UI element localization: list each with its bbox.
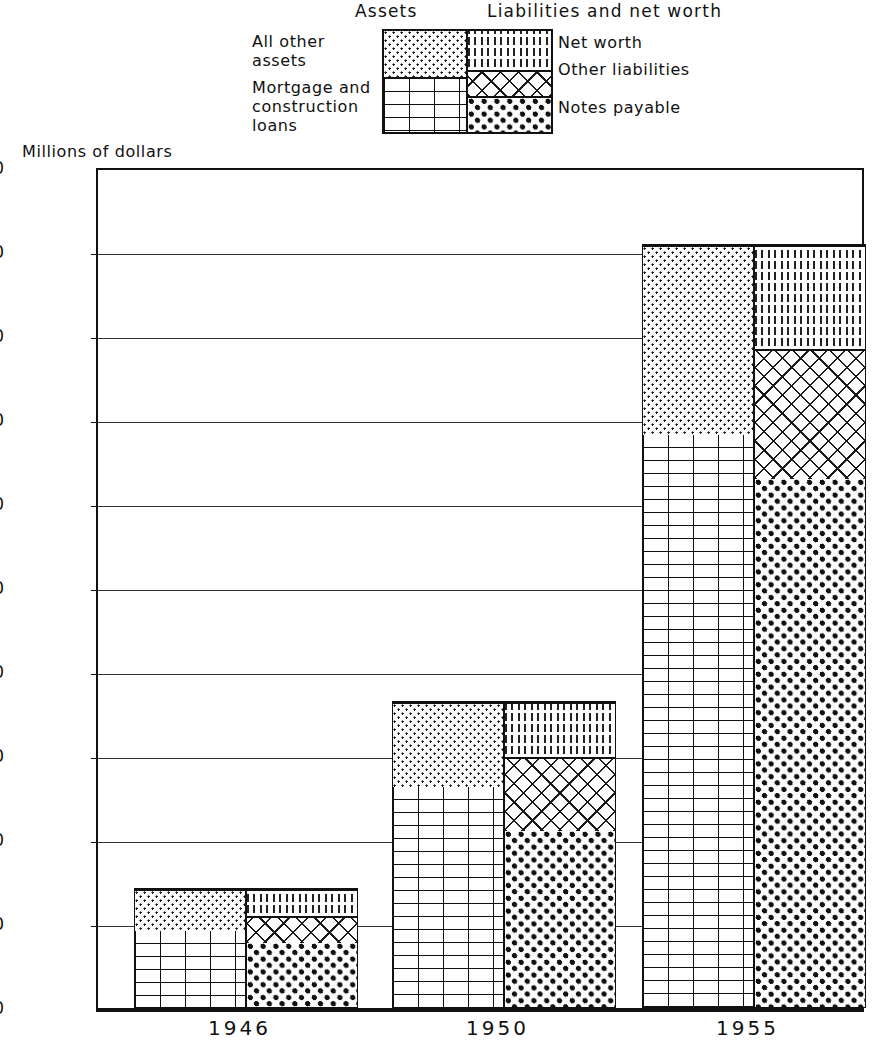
bar-segment-brick <box>643 435 753 1007</box>
y-axis-tick-label: 1,000 <box>0 578 5 598</box>
y-axis-tick-label: 1,800 <box>0 242 5 262</box>
y-axis-tick-mark <box>91 254 98 255</box>
y-axis-tick-label: 400 <box>0 830 5 850</box>
bar-segment-fine-dots <box>135 889 245 930</box>
chart-plot-area <box>96 168 864 1012</box>
y-axis-tick-label: 2,000 <box>0 158 5 178</box>
bar-1946-assets <box>134 888 246 1008</box>
bar-1955-liabilities <box>754 244 866 1008</box>
legend-label-other-liabilities: Other liabilities <box>558 60 690 79</box>
bar-segment-crosshatch <box>247 916 357 943</box>
y-axis-tick-label: 1,400 <box>0 410 5 430</box>
legend-title-liabilities: Liabilities and net worth <box>487 1 722 21</box>
swatch-other-liabilities <box>468 72 552 97</box>
bar-segment-crosshatch <box>505 757 615 831</box>
bar-segment-vertical-dash <box>247 889 357 916</box>
y-axis-tick-label: 200 <box>0 914 5 934</box>
bar-segment-brick <box>393 787 503 1007</box>
swatch-notes-payable <box>468 98 552 132</box>
y-axis-tick-label: 600 <box>0 746 5 766</box>
y-axis-tick-mark <box>91 506 98 507</box>
y-axis-tick-mark <box>91 674 98 675</box>
bar-1946-liabilities <box>246 888 358 1008</box>
bar-segment-bold-dots <box>755 479 865 1007</box>
legend-label-all-other-assets: All other assets <box>252 32 325 70</box>
bar-1950-liabilities <box>504 701 616 1008</box>
bar-segment-crosshatch <box>755 349 865 479</box>
bar-segment-bold-dots <box>505 831 615 1007</box>
legend-title-assets: Assets <box>355 1 418 21</box>
legend-label-net-worth: Net worth <box>558 33 642 52</box>
y-axis-tick-mark <box>91 926 98 927</box>
bar-1950-assets <box>392 701 504 1008</box>
bar-segment-brick <box>135 931 245 1007</box>
y-axis-tick-label: 1,600 <box>0 326 5 346</box>
x-axis-label-1955: 1955 <box>716 1016 779 1040</box>
y-axis-tick-label: 1,200 <box>0 494 5 514</box>
x-axis-label-1946: 1946 <box>208 1016 271 1040</box>
bar-segment-vertical-dash <box>755 245 865 350</box>
bar-1955-assets <box>642 244 754 1008</box>
swatch-net-worth <box>468 31 552 72</box>
bar-segment-bold-dots <box>247 943 357 1007</box>
bar-segment-fine-dots <box>643 245 753 436</box>
legend-column-liabilities <box>468 31 552 132</box>
swatch-all-other-assets <box>384 31 466 79</box>
legend-column-assets <box>384 31 468 132</box>
y-axis-tick-mark <box>91 590 98 591</box>
bar-segment-vertical-dash <box>505 702 615 756</box>
legend-swatch-box <box>382 29 553 134</box>
y-axis-caption: Millions of dollars <box>22 142 172 161</box>
legend-label-mortgage-loans: Mortgage and construction loans <box>252 78 371 135</box>
x-axis-label-1950: 1950 <box>466 1016 529 1040</box>
y-axis-tick-label: 0 <box>0 998 5 1018</box>
y-axis-tick-mark <box>91 842 98 843</box>
legend-label-notes-payable: Notes payable <box>558 98 681 117</box>
y-axis-tick-label: 800 <box>0 662 5 682</box>
y-axis-tick-mark <box>91 422 98 423</box>
bar-segment-fine-dots <box>393 702 503 786</box>
y-axis-tick-mark <box>91 338 98 339</box>
y-axis-tick-mark <box>91 758 98 759</box>
swatch-mortgage-loans <box>384 79 466 132</box>
legend-header: Assets Liabilities and net worth <box>0 0 879 26</box>
